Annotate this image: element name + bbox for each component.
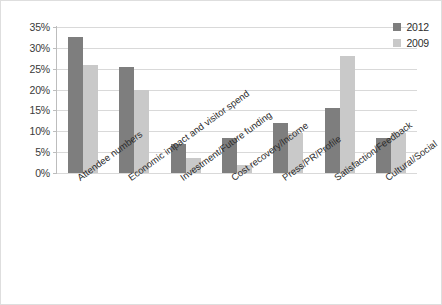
chart-legend: 20122009 — [393, 21, 429, 49]
legend-label: 2009 — [406, 37, 429, 49]
legend-label: 2012 — [406, 21, 429, 33]
bar-chart: 35%30%25%20%15%10%5%0% Attendee numbersE… — [0, 0, 442, 305]
bar-2012 — [119, 67, 134, 173]
y-axis-tick-label: 15% — [30, 104, 50, 116]
bar-2012 — [68, 37, 83, 173]
y-axis-tick-label: 0% — [35, 167, 50, 179]
bar-2009 — [83, 65, 98, 173]
bar-group — [57, 27, 108, 173]
y-axis-tick-label: 30% — [30, 42, 50, 54]
y-axis-tick-label: 5% — [35, 146, 50, 158]
y-axis-tick-label: 20% — [30, 84, 50, 96]
legend-swatch-icon — [393, 39, 401, 47]
bar-2009 — [340, 56, 355, 173]
y-axis-tick-label: 35% — [30, 21, 50, 33]
legend-item[interactable]: 2012 — [393, 21, 429, 33]
legend-swatch-icon — [393, 23, 401, 31]
y-axis-tick-label: 10% — [30, 125, 50, 137]
y-axis-tick-label: 25% — [30, 63, 50, 75]
y-axis-tick — [53, 173, 57, 174]
legend-item[interactable]: 2009 — [393, 37, 429, 49]
